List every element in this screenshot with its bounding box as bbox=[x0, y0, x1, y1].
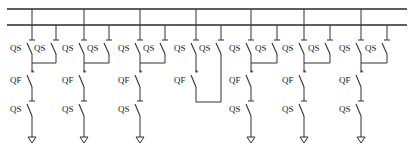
bay-5-feeder: QSQS*QFQS bbox=[229, 9, 280, 143]
qs-label: QS bbox=[62, 43, 74, 53]
switch-blade-icon bbox=[27, 43, 32, 54]
qs-label: QS bbox=[10, 104, 22, 114]
switch-blade-icon bbox=[160, 43, 165, 54]
switch-blade-icon bbox=[299, 43, 304, 54]
qf-label: QF bbox=[339, 75, 351, 85]
bus2-disconnector: QS bbox=[308, 25, 333, 54]
outgoing-line-arrow-icon bbox=[28, 137, 36, 143]
breaker-mark-icon: * bbox=[31, 69, 35, 78]
qf-label: QF bbox=[282, 75, 294, 85]
single-line-diagram: QSQS*QFQSQSQS*QFQSQSQS*QFQSQSQS*QFQSQS*Q… bbox=[0, 0, 414, 152]
bus1-disconnector: QS bbox=[339, 9, 364, 54]
switch-blade-icon bbox=[272, 43, 277, 54]
switch-blade-icon bbox=[382, 43, 387, 54]
bay-3-feeder: QSQS*QFQS bbox=[118, 9, 168, 143]
bay-6-feeder: QSQS*QFQS bbox=[282, 9, 333, 143]
outgoing-line-arrow-icon bbox=[80, 137, 88, 143]
bus2-disconnector: QS bbox=[87, 25, 112, 54]
outgoing-line-arrow-icon bbox=[247, 137, 255, 143]
qs-label: QS bbox=[339, 43, 351, 53]
circuit-breaker: *QF bbox=[62, 63, 87, 87]
switch-blade-icon bbox=[79, 43, 84, 54]
qs-label: QS bbox=[87, 43, 99, 53]
outgoing-line-arrow-icon bbox=[300, 137, 308, 143]
switch-blade-icon bbox=[27, 104, 32, 116]
switch-blade-icon bbox=[216, 43, 221, 54]
qs-label: QS bbox=[339, 104, 351, 114]
switch-blade-icon bbox=[299, 104, 304, 116]
switch-blade-icon bbox=[356, 43, 361, 54]
qs-label: QS bbox=[308, 43, 320, 53]
bus-tie-breaker: *QF bbox=[174, 63, 199, 87]
bay-1-feeder: QSQS*QFQS bbox=[10, 9, 59, 143]
qs-label: QS bbox=[282, 104, 294, 114]
qf-label: QF bbox=[62, 75, 74, 85]
circuit-breaker: *QF bbox=[10, 63, 35, 87]
circuit-breaker: *QF bbox=[118, 63, 143, 87]
qf-label: QF bbox=[229, 75, 241, 85]
qs-label: QS bbox=[365, 43, 377, 53]
bus2-disconnector: QS bbox=[365, 25, 390, 54]
qs-label: QS bbox=[174, 43, 186, 53]
qs-label: QS bbox=[34, 43, 46, 53]
circuit-breaker: *QF bbox=[282, 63, 307, 87]
qs-label: QS bbox=[255, 43, 267, 53]
busbars bbox=[7, 9, 407, 25]
bus2-disconnector: QS bbox=[143, 25, 168, 54]
bus1-disconnector: QS bbox=[174, 9, 199, 54]
qf-label: QF bbox=[174, 75, 186, 85]
breaker-mark-icon: * bbox=[360, 69, 364, 78]
qs-label: QS bbox=[282, 43, 294, 53]
qs-label: QS bbox=[118, 104, 130, 114]
qs-label: QS bbox=[229, 43, 241, 53]
bay-2-feeder: QSQS*QFQS bbox=[62, 9, 112, 143]
switch-blade-icon bbox=[246, 43, 251, 54]
breaker-mark-icon: * bbox=[83, 69, 87, 78]
qf-label: QF bbox=[10, 75, 22, 85]
bus2-disconnector: QS bbox=[199, 25, 224, 54]
breaker-mark-icon: * bbox=[303, 69, 307, 78]
switch-blade-icon bbox=[104, 43, 109, 54]
bus1-disconnector: QS bbox=[118, 9, 143, 54]
qs-label: QS bbox=[143, 43, 155, 53]
bus1-disconnector: QS bbox=[10, 9, 35, 54]
switch-blade-icon bbox=[191, 43, 196, 54]
outgoing-line-arrow-icon bbox=[357, 137, 365, 143]
switch-blade-icon bbox=[51, 43, 56, 54]
breaker-mark-icon: * bbox=[250, 69, 254, 78]
bays: QSQS*QFQSQSQS*QFQSQSQS*QFQSQSQS*QFQSQS*Q… bbox=[10, 9, 390, 143]
switch-blade-icon bbox=[246, 104, 251, 116]
switch-blade-icon bbox=[356, 104, 361, 116]
bus2-disconnector: QS bbox=[255, 25, 280, 54]
circuit-breaker: *QF bbox=[229, 63, 254, 87]
qf-label: QF bbox=[118, 75, 130, 85]
qs-label: QS bbox=[10, 43, 22, 53]
bus1-disconnector: QS bbox=[282, 9, 307, 54]
breaker-mark-icon: * bbox=[139, 69, 143, 78]
switch-blade-icon bbox=[79, 104, 84, 116]
qs-label: QS bbox=[62, 104, 74, 114]
circuit-breaker: *QF bbox=[339, 63, 364, 87]
bay-4-bus-tie: QSQS*QF bbox=[174, 9, 224, 102]
outgoing-line-arrow-icon bbox=[136, 137, 144, 143]
bay-7-feeder: QSQS*QFQS bbox=[339, 9, 390, 143]
switch-blade-icon bbox=[325, 43, 330, 54]
bus1-disconnector: QS bbox=[229, 9, 254, 54]
bus1-disconnector: QS bbox=[62, 9, 87, 54]
switch-blade-icon bbox=[135, 43, 140, 54]
qs-label: QS bbox=[199, 43, 211, 53]
bus2-disconnector: QS bbox=[34, 25, 59, 54]
qs-label: QS bbox=[229, 104, 241, 114]
qs-label: QS bbox=[118, 43, 130, 53]
switch-blade-icon bbox=[135, 104, 140, 116]
breaker-mark-icon: * bbox=[195, 69, 199, 78]
